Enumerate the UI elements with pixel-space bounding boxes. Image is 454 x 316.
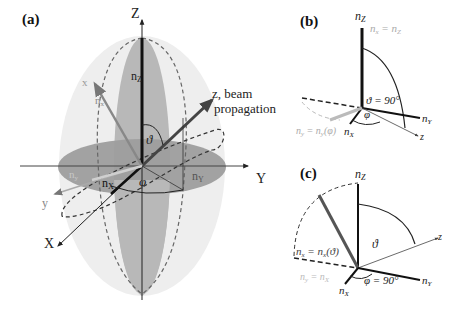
c-ny-label: nY xyxy=(422,274,433,288)
panel-c: (c) nZ ϑ z nY nX φ = 90° nx = nx(ϑ) ny =… xyxy=(294,165,442,298)
b-phi-arc xyxy=(352,120,380,125)
c-z-axis xyxy=(358,238,438,268)
beam-label-line1: z, beam xyxy=(212,86,252,101)
c-phi-eq: φ = 90° xyxy=(364,274,399,286)
beam-y-label: y xyxy=(42,196,48,210)
panel-b: (b) nZ nx = nZ nY nX z φ ϑ = 90° ny = ny… xyxy=(296,9,433,142)
b-z-label: z xyxy=(419,131,424,142)
beam-x-label: x xyxy=(82,76,88,88)
x-axis-label: X xyxy=(44,236,54,251)
c-eq-y: ny = nX xyxy=(300,271,330,284)
c-nz-label: nZ xyxy=(355,167,366,182)
theta-label: ϑ xyxy=(146,132,153,147)
b-eq-top: nx = nZ xyxy=(370,22,401,36)
c-z-label: z xyxy=(437,231,442,242)
b-eq-bottom: ny = ny(φ) xyxy=(296,125,337,138)
c-theta-arc xyxy=(358,204,415,244)
beam-label-line2: propagation xyxy=(214,101,277,116)
c-nx-axis xyxy=(345,268,358,284)
c-dashed-line xyxy=(294,258,358,268)
c-eq-x: nx = nx(ϑ) xyxy=(296,245,339,259)
z-axis-label: Z xyxy=(131,6,140,21)
b-phi-label: φ xyxy=(364,108,370,120)
y-axis-label: Y xyxy=(256,171,266,186)
b-ny-label: nY xyxy=(422,112,433,126)
panel-a-label: (a) xyxy=(22,11,40,28)
panel-a: (a) Y Z X z, beam propagation x xyxy=(20,6,277,300)
b-nz-label: nZ xyxy=(355,9,366,24)
panel-c-label: (c) xyxy=(300,165,317,182)
c-nx-label: nX xyxy=(339,284,350,298)
b-dashed-line xyxy=(302,98,362,108)
b-nx-label: nX xyxy=(344,125,355,139)
panel-b-label: (b) xyxy=(300,13,318,30)
b-theta-eq: ϑ = 90° xyxy=(366,94,400,106)
c-theta-label: ϑ xyxy=(372,237,379,251)
b-ny-axis xyxy=(362,108,420,118)
phi-label: φ xyxy=(139,174,146,189)
